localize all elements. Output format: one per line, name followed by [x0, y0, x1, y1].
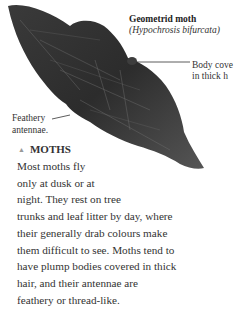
body-callout-line: in thick h [192, 71, 233, 82]
paragraph-line: them difficult to see. Moths tend to [17, 242, 227, 259]
body-callout: Body cove in thick h [192, 60, 233, 82]
paragraph-line: hair, and their antennae are [17, 275, 227, 292]
section-heading-text: MOTHS [30, 143, 71, 155]
paragraph-line: their generally drab colours make [17, 225, 227, 242]
body-callout-line: Body cove [192, 60, 233, 71]
antennae-callout-line: Feathery [12, 112, 48, 124]
figure-title: Geometrid moth [129, 14, 196, 24]
paragraph-line: have plump bodies covered in thick [17, 258, 227, 275]
paragraph-line: Most moths fly [17, 158, 227, 175]
triangle-up-icon: ▲ [18, 146, 25, 154]
figure-subtitle: (Hypochrosis bifurcata) [129, 25, 220, 35]
paragraph-line: night. They rest on tree [17, 191, 227, 208]
paragraph-line: trunks and leaf litter by day, where [17, 208, 227, 225]
antennae-callout-line: antennae. [12, 124, 48, 136]
section-heading: ▲MOTHS [18, 143, 71, 155]
antennae-callout: Feathery antennae. [12, 112, 48, 136]
paragraph-line: feathery or thread-like. [17, 292, 227, 309]
body-paragraph: Most moths fly only at dusk or at night.… [17, 158, 227, 308]
paragraph-line: only at dusk or at [17, 175, 227, 192]
